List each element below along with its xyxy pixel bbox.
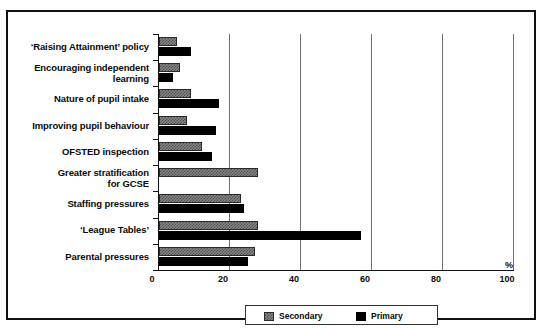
x-tick-label-60: 60 [350, 274, 380, 284]
chart-figure-frame: ‘Raising Attainment’ policyEncouraging i… [6, 10, 536, 320]
gridline-80 [442, 34, 443, 270]
gridline-100 [513, 34, 514, 270]
legend-swatch-secondary [264, 312, 274, 321]
category-label-line: Nature of pupil intake [16, 94, 149, 105]
bar-secondary [159, 221, 258, 230]
x-tick-label-80: 80 [421, 274, 451, 284]
category-axis-labels: ‘Raising Attainment’ policyEncouraging i… [16, 30, 149, 270]
category-label-line: for GCSE [16, 179, 149, 190]
category-label: ‘Raising Attainment’ policy [16, 42, 149, 53]
bar-secondary [159, 142, 202, 151]
y-tick-0 [153, 34, 159, 35]
legend-swatch-primary [356, 312, 366, 321]
x-tick-label-0: 0 [137, 274, 167, 284]
category-label-line: Parental pressures [16, 252, 149, 263]
legend-entry-secondary: Secondary [264, 310, 322, 322]
percent-axis-label: % [505, 260, 513, 270]
bar-primary [159, 152, 212, 161]
category-label: Parental pressures [16, 252, 149, 263]
bar-primary [159, 99, 219, 108]
bar-primary [159, 126, 216, 135]
category-label-line: ‘League Tables’ [16, 225, 149, 236]
y-tick-9 [153, 270, 159, 271]
category-label-line: ‘Raising Attainment’ policy [16, 42, 149, 53]
category-label-line: Greater stratification [16, 168, 149, 179]
legend-entry-primary: Primary [356, 310, 403, 322]
bar-primary [159, 73, 173, 82]
category-label-line: learning [16, 74, 149, 85]
bar-secondary [159, 168, 258, 177]
bar-primary [159, 204, 244, 213]
category-label: ‘League Tables’ [16, 225, 149, 236]
category-label: Nature of pupil intake [16, 94, 149, 105]
y-tick-1 [153, 60, 159, 61]
plot-area [158, 34, 513, 270]
legend-label: Secondary [279, 311, 322, 321]
chart-legend: SecondaryPrimary [245, 305, 438, 325]
y-tick-6 [153, 191, 159, 192]
x-tick-label-40: 40 [279, 274, 309, 284]
bar-primary [159, 231, 361, 240]
bar-secondary [159, 194, 241, 203]
y-tick-4 [153, 139, 159, 140]
gridline-60 [371, 34, 372, 270]
bar-primary [159, 257, 248, 266]
y-tick-5 [153, 165, 159, 166]
category-label: Staffing pressures [16, 199, 149, 210]
category-label: Greater stratificationfor GCSE [16, 168, 149, 189]
y-tick-3 [153, 113, 159, 114]
category-label-line: Encouraging independent [16, 63, 149, 74]
x-tick-label-20: 20 [208, 274, 238, 284]
bar-secondary [159, 63, 180, 72]
category-label: Improving pupil behaviour [16, 121, 149, 132]
bar-secondary [159, 89, 191, 98]
x-axis-line [158, 270, 514, 271]
y-tick-2 [153, 86, 159, 87]
y-tick-8 [153, 244, 159, 245]
bar-primary [159, 47, 191, 56]
y-tick-7 [153, 218, 159, 219]
bar-secondary [159, 37, 177, 46]
category-label-line: Improving pupil behaviour [16, 121, 149, 132]
bar-secondary [159, 247, 255, 256]
category-label-line: OFSTED inspection [16, 147, 149, 158]
category-label: OFSTED inspection [16, 147, 149, 158]
category-label-line: Staffing pressures [16, 199, 149, 210]
x-tick-label-100: 100 [492, 274, 522, 284]
bar-secondary [159, 116, 187, 125]
category-label: Encouraging independentlearning [16, 63, 149, 84]
legend-label: Primary [371, 311, 403, 321]
